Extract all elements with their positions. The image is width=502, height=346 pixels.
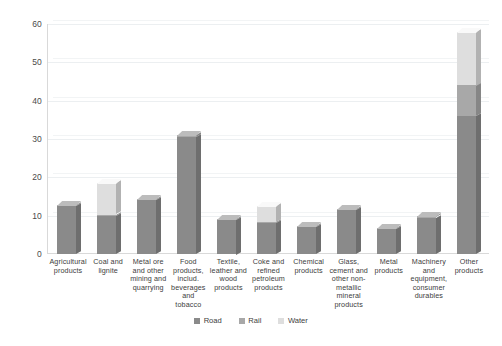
x-axis-category-label: Coke and refined petroleum products [248,258,288,292]
legend-swatch-icon [278,318,284,324]
x-axis-category-label: Metal ore and other mining and quarrying [128,258,168,292]
y-axis-tick-label: 60 [12,19,42,29]
x-axis-category-label: Glass, cement and other non-metallic min… [329,258,369,310]
legend-item[interactable]: Road [194,316,222,325]
bar-segment-side [476,29,481,85]
y-axis: 6050403020100 [8,24,42,254]
bar-segment-side [196,134,201,254]
legend-item[interactable]: Water [278,316,307,325]
bar-segment-side [116,213,121,254]
bar-segment-face [137,200,156,254]
bar-group[interactable] [248,24,288,254]
bar-segment-side [236,217,241,254]
bar-segment-rail[interactable] [257,222,276,223]
bar-segment-face [457,85,476,116]
bar-group[interactable] [88,24,128,254]
bar-segment-side [356,207,361,254]
x-axis-category-label: Other products [449,258,489,275]
bar-segment-side [276,221,281,254]
bar-segment-water[interactable] [97,183,116,214]
legend-swatch-icon [239,318,245,324]
bar-segment-side [76,203,81,254]
legend-label: Water [288,316,308,325]
bar-segment-road[interactable] [457,116,476,254]
y-axis-tick-label: 0 [12,249,42,259]
bar-segment-face [257,222,276,223]
bar-segment-side [476,83,481,116]
bar-group[interactable] [168,24,208,254]
bar-group[interactable] [369,24,409,254]
y-axis-tick-label: 40 [12,96,42,106]
bar-segment-face [217,220,236,255]
bar-segment-road[interactable] [177,137,196,254]
bar-segment-side [116,180,121,214]
bar-segment-face [417,218,436,254]
bar-segment-road[interactable] [257,223,276,254]
bar-segment-face [257,206,276,222]
legend-swatch-icon [194,318,200,324]
bar-segment-water[interactable] [257,206,276,222]
bar-segment-road[interactable] [97,216,116,254]
gridline-depth [53,20,489,21]
bar-segment-side [396,226,401,254]
bar-segment-side [156,198,161,254]
bar-group[interactable] [409,24,449,254]
bar-segment-face [57,206,76,254]
y-axis-tick-label: 30 [12,134,42,144]
bar-group[interactable] [329,24,369,254]
chart-container: 6050403020100 Agricultural productsCoal … [0,0,502,346]
y-axis-tick-label: 20 [12,172,42,182]
bar-segment-water[interactable] [457,32,476,86]
bar-group[interactable] [449,24,489,254]
bar-segment-road[interactable] [377,229,396,254]
bar-segment-face [97,183,116,214]
bar-segment-road[interactable] [217,220,236,255]
x-axis-labels: Agricultural productsCoal and ligniteMet… [48,258,489,320]
bar-group[interactable] [48,24,88,254]
x-axis-category-label: Metal products [369,258,409,275]
y-axis-tick-label: 10 [12,211,42,221]
legend-label: Rail [248,316,261,325]
bar-segment-face [257,223,276,254]
bar-segment-road[interactable] [57,206,76,254]
bar-segment-face [297,227,316,254]
bar-segment-rail[interactable] [457,85,476,116]
x-axis-category-label: Textile, leather and wood products [208,258,248,292]
x-axis-category-label: Chemical products [289,258,329,275]
chart-legend: RoadRailWater [0,316,502,325]
bar-segment-side [436,215,441,254]
bar-group[interactable] [208,24,248,254]
bar-segment-face [377,229,396,254]
bar-segment-face [457,116,476,254]
bar-segment-face [337,210,356,254]
bar-segment-rail[interactable] [97,215,116,216]
bar-segment-road[interactable] [137,200,156,254]
x-axis-category-label: Coal and lignite [88,258,128,275]
x-axis-category-label: Agricultural products [48,258,88,275]
bar-segment-side [476,113,481,254]
x-axis-category-label: Machinery and equipment, consumer durabl… [409,258,449,301]
bar-segment-road[interactable] [417,218,436,254]
legend-label: Road [204,316,222,325]
bar-series-group [48,24,489,254]
bar-segment-road[interactable] [297,227,316,254]
bar-segment-road[interactable] [337,210,356,254]
legend-item[interactable]: Rail [239,316,262,325]
bar-segment-face [97,216,116,254]
x-axis-category-label: Food products, includ. beverages and tob… [168,258,208,310]
bar-segment-face [97,215,116,216]
bar-segment-side [316,225,321,254]
bar-group[interactable] [289,24,329,254]
bar-segment-face [457,32,476,86]
bar-group[interactable] [128,24,168,254]
bar-segment-face [177,137,196,254]
y-axis-tick-label: 50 [12,57,42,67]
